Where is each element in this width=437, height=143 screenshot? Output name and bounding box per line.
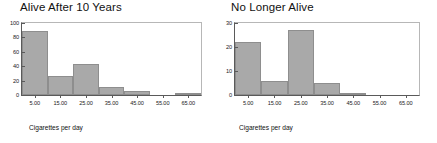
- y-axis-tick-mark: [235, 47, 238, 48]
- y-axis-tick-label: 30: [226, 20, 232, 26]
- x-axis-tick-mark: [248, 95, 249, 98]
- xaxis-title-alive: Cigarettes per day: [29, 124, 83, 131]
- x-axis-tick-label: 35.00: [105, 100, 119, 106]
- x-axis-tick-label: 25.00: [79, 100, 93, 106]
- y-axis-tick-mark: [235, 23, 238, 24]
- y-axis-tick-label: 0: [16, 92, 19, 98]
- histogram-bar: [314, 83, 340, 95]
- y-axis-tick-mark: [22, 95, 25, 96]
- y-axis-tick-mark: [22, 23, 25, 24]
- x-axis-tick-mark: [35, 95, 36, 98]
- y-axis-tick-label: 100: [10, 20, 19, 26]
- plot-area-no-longer-alive: [234, 22, 420, 96]
- x-axis-tick-mark: [380, 95, 381, 98]
- x-axis-tick-mark: [406, 95, 407, 98]
- chart-title-alive: Alive After 10 Years: [20, 1, 122, 13]
- y-axis-tick-mark: [22, 81, 25, 82]
- plot-area-alive: [21, 22, 202, 96]
- x-axis-tick-label: 35.00: [320, 100, 334, 106]
- x-axis-tick-label: 15.00: [268, 100, 282, 106]
- x-axis-tick-label: 65.00: [399, 100, 413, 106]
- y-axis-tick-label: 80: [13, 34, 19, 40]
- x-axis-tick-mark: [86, 95, 87, 98]
- chart-panel-alive: Alive After 10 Years 0204060801005.0015.…: [0, 0, 218, 143]
- x-axis-tick-mark: [60, 95, 61, 98]
- y-axis-tick-mark: [22, 52, 25, 53]
- y-axis-tick-mark: [235, 95, 238, 96]
- y-axis-tick-label: 40: [13, 63, 19, 69]
- x-axis-tick-label: 15.00: [54, 100, 68, 106]
- x-axis-tick-mark: [353, 95, 354, 98]
- histogram-bar: [235, 42, 261, 95]
- xaxis-title-no-longer-alive: Cigarettes per day: [239, 124, 293, 131]
- x-axis-tick-mark: [163, 95, 164, 98]
- y-axis-tick-label: 60: [13, 49, 19, 55]
- x-axis-tick-label: 55.00: [373, 100, 387, 106]
- y-axis-tick-label: 0: [229, 92, 232, 98]
- x-axis-tick-mark: [274, 95, 275, 98]
- y-axis-tick-mark: [22, 37, 25, 38]
- y-axis-tick-label: 20: [13, 78, 19, 84]
- histogram-bar: [261, 81, 287, 95]
- x-axis-tick-mark: [327, 95, 328, 98]
- bar-series-no-longer-alive: [235, 23, 419, 95]
- histogram-bar: [73, 64, 99, 95]
- bar-series-alive: [22, 23, 201, 95]
- x-axis-tick-label: 45.00: [347, 100, 361, 106]
- x-axis-tick-mark: [112, 95, 113, 98]
- x-axis-tick-label: 5.00: [243, 100, 254, 106]
- x-axis-tick-mark: [137, 95, 138, 98]
- x-axis-tick-label: 25.00: [294, 100, 308, 106]
- x-axis-tick-label: 65.00: [181, 100, 195, 106]
- y-axis-tick-mark: [22, 66, 25, 67]
- x-axis-tick-label: 5.00: [30, 100, 41, 106]
- histogram-bar: [99, 87, 125, 95]
- y-axis-tick-label: 20: [226, 44, 232, 50]
- histogram-bar: [288, 30, 314, 95]
- x-axis-tick-mark: [301, 95, 302, 98]
- histogram-bar: [22, 31, 48, 95]
- chart-title-no-longer-alive: No Longer Alive: [231, 1, 314, 13]
- x-axis-tick-label: 45.00: [130, 100, 144, 106]
- histogram-bar: [48, 76, 74, 95]
- x-axis-tick-mark: [188, 95, 189, 98]
- x-axis-tick-label: 55.00: [156, 100, 170, 106]
- y-axis-tick-label: 10: [226, 68, 232, 74]
- chart-panel-no-longer-alive: No Longer Alive 01020305.0015.0025.0035.…: [218, 0, 436, 143]
- y-axis-tick-mark: [235, 71, 238, 72]
- histogram-figure: Alive After 10 Years 0204060801005.0015.…: [0, 0, 437, 143]
